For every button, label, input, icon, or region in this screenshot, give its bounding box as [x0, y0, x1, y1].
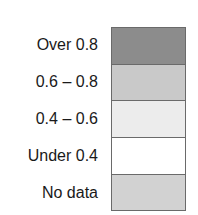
legend-label-over-0-8: Over 0.8: [0, 35, 98, 55]
swatch-no-data: [112, 175, 185, 210]
legend-label-0-4-0-6: 0.4 – 0.6: [0, 109, 98, 129]
legend-label-under-0-4: Under 0.4: [0, 146, 98, 166]
swatch-over-0-8: [112, 28, 185, 65]
legend: Over 0.8 0.6 – 0.8 0.4 – 0.6 Under 0.4 N…: [0, 0, 198, 215]
legend-label-0-6-0-8: 0.6 – 0.8: [0, 72, 98, 92]
swatch-under-0-4: [112, 138, 185, 175]
swatch-0-4-0-6: [112, 101, 185, 138]
swatch-0-6-0-8: [112, 65, 185, 101]
legend-swatch-column: [111, 27, 186, 211]
legend-label-no-data: No data: [0, 183, 98, 203]
